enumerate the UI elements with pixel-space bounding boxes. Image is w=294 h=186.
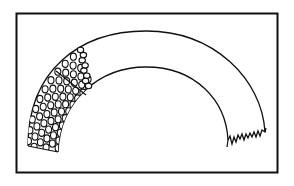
packed-circle bbox=[49, 140, 55, 147]
packed-circle bbox=[40, 103, 46, 110]
packed-circle bbox=[51, 109, 57, 116]
packed-circle bbox=[52, 93, 58, 100]
packed-circle bbox=[65, 86, 71, 93]
column-circle bbox=[82, 63, 88, 68]
packed-circle bbox=[37, 95, 43, 102]
diagram-canvas bbox=[0, 0, 294, 186]
packed-circle bbox=[70, 62, 76, 69]
packed-circle bbox=[44, 111, 50, 118]
column-circle bbox=[80, 52, 86, 57]
packed-circle bbox=[62, 60, 68, 67]
packed-circle bbox=[51, 132, 57, 139]
packed-circle bbox=[32, 133, 38, 140]
packed-circle bbox=[58, 85, 64, 92]
packed-circle bbox=[27, 127, 33, 134]
packed-circle bbox=[70, 53, 76, 60]
diagram-svg bbox=[0, 0, 294, 186]
packed-circle bbox=[44, 135, 50, 142]
column-circle bbox=[85, 83, 91, 88]
frayed-end-left-drop bbox=[227, 140, 228, 147]
packed-circle bbox=[63, 101, 69, 108]
packed-circle bbox=[48, 77, 54, 84]
packed-circle bbox=[59, 108, 65, 115]
packed-circle bbox=[56, 77, 62, 84]
packed-circle bbox=[34, 123, 40, 130]
packed-circle bbox=[62, 115, 68, 122]
packed-circle bbox=[26, 137, 32, 144]
packed-circle bbox=[53, 124, 59, 131]
packed-circle bbox=[67, 94, 73, 101]
column-circle bbox=[84, 73, 90, 78]
packed-circle bbox=[55, 116, 61, 123]
packed-circle bbox=[37, 113, 43, 120]
packed-circle bbox=[45, 94, 51, 101]
packed-circle bbox=[37, 139, 43, 146]
packed-circle bbox=[48, 117, 54, 124]
packed-circle bbox=[55, 101, 61, 108]
packed-circle bbox=[60, 93, 66, 100]
packed-circle bbox=[42, 86, 48, 93]
packed-circle bbox=[48, 102, 54, 109]
packed-circle bbox=[46, 126, 52, 133]
packed-circle bbox=[63, 69, 69, 76]
packed-circle bbox=[50, 85, 56, 92]
packed-circle bbox=[39, 129, 45, 136]
frayed-end bbox=[228, 128, 266, 144]
packed-circle bbox=[70, 71, 76, 78]
packed-circle bbox=[33, 105, 39, 112]
packed-circle bbox=[41, 120, 47, 127]
